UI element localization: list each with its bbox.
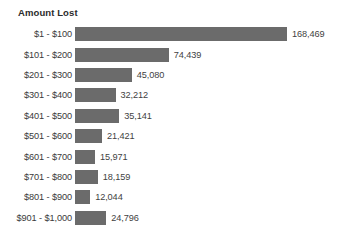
bar-fill [75, 190, 90, 204]
bar-track: 35,141 [75, 109, 338, 123]
bar-row: $301 - $40032,212 [0, 85, 338, 105]
bar-chart: Amount Lost $1 - $100168,469$101 - $2007… [0, 0, 338, 252]
bar-track: 45,080 [75, 68, 338, 82]
bar-fill [75, 68, 132, 82]
bar-category-label: $301 - $400 [0, 90, 72, 100]
bar-value-label: 32,212 [121, 90, 149, 100]
bar-value-label: 18,159 [103, 172, 131, 182]
bar-fill [75, 129, 102, 143]
bar-category-label: $401 - $500 [0, 111, 72, 121]
bar-category-label: $501 - $600 [0, 131, 72, 141]
bar-track: 15,971 [75, 150, 338, 164]
bar-fill [75, 170, 98, 184]
bar-track: 18,159 [75, 170, 338, 184]
bar-category-label: $901 - $1,000 [0, 213, 72, 223]
bar-track: 12,044 [75, 190, 338, 204]
bar-row: $801 - $90012,044 [0, 187, 338, 207]
bar-category-label: $801 - $900 [0, 192, 72, 202]
bar-track: 74,439 [75, 48, 338, 62]
bar-row: $601 - $70015,971 [0, 146, 338, 166]
bar-value-label: 15,971 [100, 152, 128, 162]
bar-track: 168,469 [75, 27, 338, 41]
bar-category-label: $601 - $700 [0, 152, 72, 162]
bar-fill [75, 48, 169, 62]
bar-row: $901 - $1,00024,796 [0, 208, 338, 228]
bar-category-label: $1 - $100 [0, 29, 72, 39]
bar-row: $101 - $20074,439 [0, 44, 338, 64]
bar-fill [75, 109, 119, 123]
bar-row: $501 - $60021,421 [0, 126, 338, 146]
bar-fill [75, 27, 287, 41]
bar-value-label: 12,044 [95, 192, 123, 202]
bar-track: 32,212 [75, 88, 338, 102]
bar-row: $201 - $30045,080 [0, 65, 338, 85]
bar-value-label: 24,796 [111, 213, 139, 223]
bar-track: 21,421 [75, 129, 338, 143]
bar-value-label: 168,469 [292, 29, 325, 39]
bar-rows-container: $1 - $100168,469$101 - $20074,439$201 - … [0, 24, 338, 228]
bar-track: 24,796 [75, 211, 338, 225]
bar-value-label: 35,141 [124, 111, 152, 121]
bar-value-label: 74,439 [174, 50, 202, 60]
bar-category-label: $101 - $200 [0, 50, 72, 60]
chart-title: Amount Lost [18, 7, 78, 18]
bar-row: $1 - $100168,469 [0, 24, 338, 44]
bar-category-label: $701 - $800 [0, 172, 72, 182]
bar-value-label: 45,080 [137, 70, 165, 80]
bar-fill [75, 150, 95, 164]
bar-row: $401 - $50035,141 [0, 106, 338, 126]
bar-value-label: 21,421 [107, 131, 135, 141]
bar-fill [75, 211, 106, 225]
bar-row: $701 - $80018,159 [0, 167, 338, 187]
bar-fill [75, 88, 116, 102]
bar-category-label: $201 - $300 [0, 70, 72, 80]
